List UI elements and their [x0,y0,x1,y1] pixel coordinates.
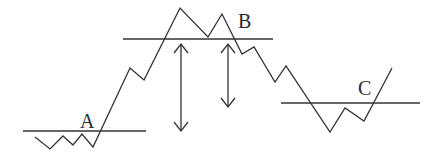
label-b: B [238,10,251,32]
diagram-canvas: A B C [0,0,442,154]
double-arrow-1 [174,44,188,131]
label-a: A [80,110,95,132]
label-c: C [358,77,371,99]
double-arrow-2 [221,44,235,107]
